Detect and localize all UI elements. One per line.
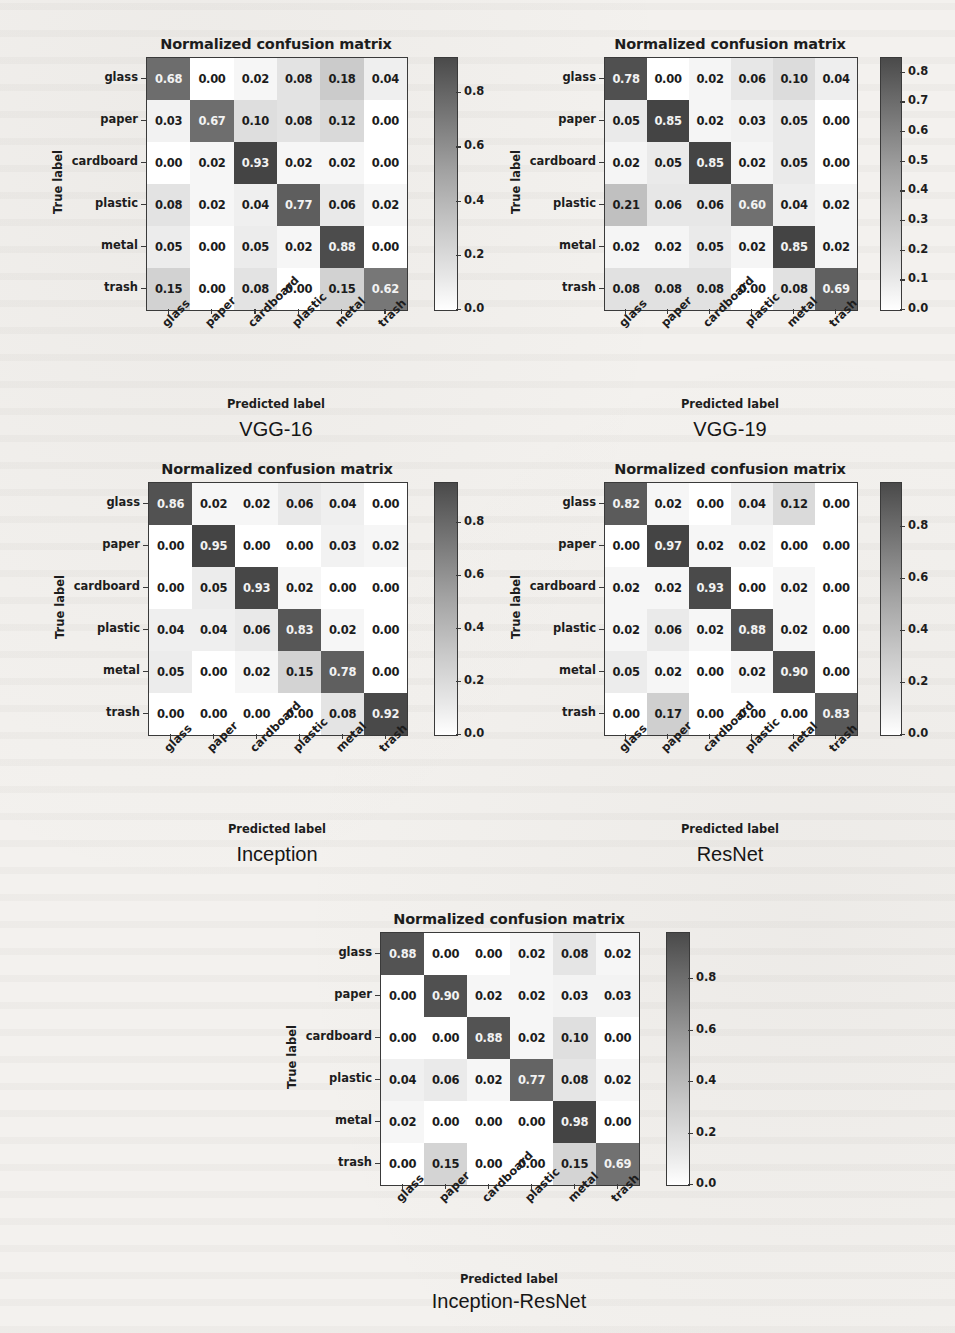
matrix-cell: 0.00	[149, 567, 192, 609]
matrix-cell: 0.05	[147, 226, 190, 268]
matrix-cell: 0.02	[605, 142, 647, 184]
x-tick-mark	[793, 734, 794, 739]
matrix-cell: 0.02	[605, 567, 647, 609]
matrix-cell: 0.02	[510, 1017, 553, 1059]
matrix-cell: 0.00	[773, 693, 815, 735]
matrix-cell: 0.00	[605, 525, 647, 567]
matrix-cell: 0.82	[605, 483, 647, 525]
x-tick-mark	[213, 734, 214, 739]
matrix-cell: 0.00	[596, 1101, 639, 1143]
x-tick-mark	[445, 1184, 446, 1189]
matrix-cell: 0.00	[149, 693, 192, 735]
y-tick-mark	[141, 162, 146, 163]
x-axis-title: Predicted label	[146, 397, 406, 411]
colorbar-tick-label: 0.0	[908, 301, 928, 315]
matrix-cell: 0.02	[234, 58, 277, 100]
x-tick-label: metal	[784, 719, 820, 755]
x-tick-mark	[342, 734, 343, 739]
x-tick-label: trash	[376, 721, 410, 755]
y-tick-label: cardboard	[302, 1029, 372, 1043]
matrix-cell: 0.02	[278, 567, 321, 609]
matrix-cell: 0.78	[605, 58, 647, 100]
x-axis-title: Predicted label	[380, 1272, 638, 1286]
x-tick-mark	[168, 309, 169, 314]
x-tick-mark	[254, 309, 255, 314]
colorbar-tick-label: 0.0	[908, 726, 928, 740]
matrix-cell: 0.05	[234, 226, 277, 268]
colorbar-tick-mark	[900, 220, 905, 221]
matrix-cell: 0.00	[364, 100, 407, 142]
colorbar-tick-label: 0.6	[908, 570, 928, 584]
matrix-cell: 0.00	[149, 525, 192, 567]
x-tick-mark	[751, 309, 752, 314]
matrix-cell: 0.93	[235, 567, 278, 609]
heatmap-grid: 0.820.020.000.040.120.000.000.970.020.02…	[604, 482, 858, 736]
x-tick-mark	[617, 1184, 618, 1189]
matrix-cell: 0.00	[815, 483, 857, 525]
model-name-caption: ResNet	[604, 843, 856, 866]
y-tick-mark	[599, 629, 604, 630]
x-tick-label: plastic	[522, 1165, 562, 1205]
matrix-cell: 0.86	[149, 483, 192, 525]
colorbar-tick-mark	[900, 526, 905, 527]
matrix-cell: 0.05	[192, 567, 235, 609]
matrix-cell: 0.08	[147, 184, 190, 226]
matrix-cell: 0.78	[321, 651, 364, 693]
matrix-cell: 0.00	[510, 1101, 553, 1143]
y-tick-label: plastic	[302, 1071, 372, 1085]
y-tick-label: cardboard	[68, 154, 138, 168]
colorbar-tick-label: 0.6	[464, 138, 484, 152]
y-tick-label: paper	[70, 537, 140, 551]
matrix-cell: 0.15	[553, 1143, 596, 1185]
matrix-cell: 0.17	[647, 693, 689, 735]
x-tick-label: trash	[826, 296, 860, 330]
colorbar-tick-mark	[900, 682, 905, 683]
y-tick-mark	[141, 120, 146, 121]
matrix-cell: 0.00	[815, 142, 857, 184]
matrix-cell: 0.88	[467, 1017, 510, 1059]
matrix-cell: 0.02	[815, 184, 857, 226]
y-tick-label: trash	[68, 280, 138, 294]
matrix-cell: 0.93	[234, 142, 277, 184]
matrix-cell: 0.88	[381, 933, 424, 975]
matrix-cell: 0.02	[510, 933, 553, 975]
y-tick-label: plastic	[526, 196, 596, 210]
matrix-cell: 0.15	[147, 268, 190, 310]
matrix-cell: 0.02	[647, 567, 689, 609]
y-tick-mark	[599, 204, 604, 205]
matrix-cell: 0.02	[731, 525, 773, 567]
matrix-cell: 0.00	[815, 651, 857, 693]
matrix-cell: 0.06	[278, 483, 321, 525]
matrix-cell: 0.00	[147, 142, 190, 184]
x-tick-label: trash	[608, 1171, 642, 1205]
y-axis-title: True label	[509, 557, 523, 657]
matrix-cell: 0.83	[815, 693, 857, 735]
colorbar-tick-label: 0.4	[696, 1073, 716, 1087]
matrix-cell: 0.85	[689, 142, 731, 184]
x-tick-mark	[341, 309, 342, 314]
matrix-cell: 0.00	[424, 1101, 467, 1143]
colorbar-tick-mark	[900, 279, 905, 280]
matrix-cell: 0.02	[773, 609, 815, 651]
colorbar-tick-label: 0.6	[696, 1022, 716, 1036]
x-tick-mark	[256, 734, 257, 739]
colorbar-tick-label: 0.4	[464, 193, 484, 207]
matrix-cell: 0.03	[147, 100, 190, 142]
colorbar-tick-label: 0.8	[464, 514, 484, 528]
y-tick-mark	[375, 1079, 380, 1080]
colorbar-tick-mark	[456, 628, 461, 629]
colorbar-tick-label: 0.2	[696, 1125, 716, 1139]
matrix-cell: 0.83	[278, 609, 321, 651]
x-tick-label: glass	[393, 1171, 427, 1205]
matrix-cell: 0.00	[815, 525, 857, 567]
matrix-cell: 0.02	[510, 975, 553, 1017]
matrix-cell: 0.00	[647, 58, 689, 100]
y-axis-title: True label	[285, 1007, 299, 1107]
matrix-cell: 0.03	[731, 100, 773, 142]
matrix-cell: 0.00	[364, 651, 407, 693]
y-tick-mark	[375, 953, 380, 954]
x-tick-label: metal	[332, 294, 368, 330]
colorbar-tick-mark	[456, 201, 461, 202]
colorbar-tick-label: 0.2	[464, 673, 484, 687]
matrix-cell: 0.02	[467, 1059, 510, 1101]
